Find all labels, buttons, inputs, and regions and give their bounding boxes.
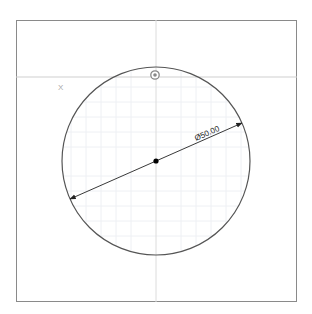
diameter-dimension-label[interactable]: Ø50.00 bbox=[193, 124, 221, 143]
center-point[interactable] bbox=[153, 158, 158, 163]
coincident-constraint-icon[interactable] bbox=[151, 71, 159, 79]
axis-label: X bbox=[58, 83, 64, 92]
sketch-canvas[interactable]: X Ø50.00 bbox=[0, 0, 312, 314]
